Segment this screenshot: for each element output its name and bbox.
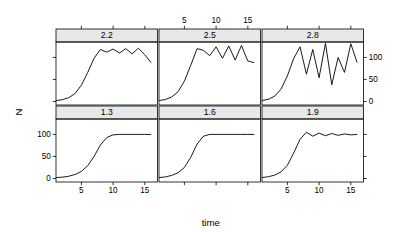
- y-axis-title: N: [13, 108, 24, 115]
- data-line-1-9: [262, 132, 357, 177]
- plot-canvas: 2.22.5510152.80501001.3510150501001.61.9…: [0, 0, 409, 232]
- strip-label: 2.8: [307, 30, 319, 40]
- trellis-plot: 2.22.5510152.80501001.3510150501001.61.9…: [0, 0, 409, 232]
- strip-label: 2.5: [204, 30, 216, 40]
- y-tick-label: 50: [369, 75, 379, 84]
- strip-label: 2.2: [101, 30, 113, 40]
- panel-2-5: 2.551015: [159, 16, 261, 105]
- x-tick-label: 10: [212, 16, 222, 25]
- y-tick-label: 100: [369, 53, 383, 62]
- x-tick-label: 5: [79, 186, 84, 195]
- y-tick-label: 0: [369, 97, 374, 106]
- panel-border: [159, 119, 261, 182]
- data-line-2-8: [262, 43, 357, 100]
- x-tick-label: 10: [109, 186, 119, 195]
- strip-label: 1.3: [101, 107, 113, 117]
- strip-label: 1.9: [307, 107, 319, 117]
- data-line-2-5: [159, 46, 254, 101]
- y-tick-label: 50: [42, 152, 52, 161]
- panel-border: [159, 42, 261, 105]
- panel-1-9: 1.951015: [262, 106, 367, 195]
- panel-border: [56, 119, 158, 182]
- y-tick-label: 0: [46, 174, 51, 183]
- data-line-2-2: [56, 48, 151, 100]
- x-axis-title: time: [202, 217, 220, 228]
- panel-2-2: 2.2: [53, 26, 158, 105]
- panel-1-6: 1.6: [159, 106, 261, 185]
- strip-label: 1.6: [204, 107, 216, 117]
- x-tick-label: 15: [243, 16, 253, 25]
- x-tick-label: 15: [140, 186, 150, 195]
- panel-1-3: 1.351015050100: [37, 106, 157, 195]
- x-tick-label: 5: [285, 186, 290, 195]
- panel-2-8: 2.8050100: [262, 26, 383, 107]
- panel-border: [262, 119, 364, 182]
- x-tick-label: 5: [182, 16, 187, 25]
- x-tick-label: 15: [346, 186, 356, 195]
- x-tick-label: 10: [315, 186, 325, 195]
- y-tick-label: 100: [37, 130, 51, 139]
- data-line-1-3: [56, 134, 151, 177]
- data-line-1-6: [159, 134, 254, 177]
